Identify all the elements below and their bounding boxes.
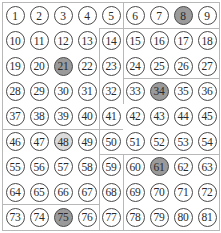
number-circle[interactable]: 60 <box>126 157 145 176</box>
number-circle[interactable]: 25 <box>150 57 169 76</box>
grid-cell[interactable]: 58 <box>75 154 99 179</box>
number-circle[interactable]: 46 <box>6 132 25 151</box>
number-circle[interactable]: 42 <box>126 107 145 126</box>
number-circle[interactable]: 14 <box>102 31 121 50</box>
number-circle[interactable]: 9 <box>198 6 217 25</box>
grid-cell[interactable]: 71 <box>171 180 195 205</box>
number-circle[interactable]: 52 <box>150 132 169 151</box>
number-circle[interactable]: 21 <box>54 57 73 76</box>
grid-cell[interactable]: 30 <box>51 79 75 104</box>
grid-cell[interactable]: 42 <box>123 104 147 129</box>
number-circle[interactable]: 26 <box>174 57 193 76</box>
number-circle[interactable]: 45 <box>198 107 217 126</box>
number-circle[interactable]: 2 <box>30 6 49 25</box>
grid-cell[interactable]: 40 <box>75 104 99 129</box>
grid-cell[interactable]: 16 <box>147 28 171 53</box>
grid-cell[interactable]: 68 <box>99 180 123 205</box>
number-circle[interactable]: 74 <box>30 208 49 227</box>
grid-cell[interactable]: 6 <box>123 3 147 28</box>
grid-cell[interactable]: 39 <box>51 104 75 129</box>
grid-cell[interactable]: 74 <box>27 205 51 230</box>
number-circle[interactable]: 70 <box>150 183 169 202</box>
number-circle[interactable]: 73 <box>6 208 25 227</box>
grid-cell[interactable]: 44 <box>171 104 195 129</box>
grid-cell[interactable]: 32 <box>99 79 123 104</box>
grid-cell[interactable]: 9 <box>195 3 219 28</box>
number-circle[interactable]: 62 <box>174 157 193 176</box>
number-circle[interactable]: 48 <box>54 132 73 151</box>
grid-cell[interactable]: 49 <box>75 129 99 154</box>
grid-cell[interactable]: 56 <box>27 154 51 179</box>
grid-cell[interactable]: 79 <box>147 205 171 230</box>
number-circle[interactable]: 69 <box>126 183 145 202</box>
grid-cell[interactable]: 11 <box>27 28 51 53</box>
grid-cell[interactable]: 67 <box>75 180 99 205</box>
grid-cell[interactable]: 35 <box>171 79 195 104</box>
number-circle[interactable]: 36 <box>198 82 217 101</box>
grid-cell[interactable]: 36 <box>195 79 219 104</box>
grid-cell[interactable]: 7 <box>147 3 171 28</box>
number-circle[interactable]: 30 <box>54 82 73 101</box>
number-circle[interactable]: 41 <box>102 107 121 126</box>
grid-cell[interactable]: 33 <box>123 79 147 104</box>
grid-cell[interactable]: 18 <box>195 28 219 53</box>
grid-cell[interactable]: 60 <box>123 154 147 179</box>
number-circle[interactable]: 1 <box>6 6 25 25</box>
grid-cell[interactable]: 12 <box>51 28 75 53</box>
number-circle[interactable]: 4 <box>78 6 97 25</box>
number-circle[interactable]: 80 <box>174 208 193 227</box>
number-circle[interactable]: 63 <box>198 157 217 176</box>
number-circle[interactable]: 72 <box>198 183 217 202</box>
number-circle[interactable]: 55 <box>6 157 25 176</box>
grid-cell[interactable]: 77 <box>99 205 123 230</box>
grid-cell[interactable]: 72 <box>195 180 219 205</box>
grid-cell[interactable]: 73 <box>3 205 27 230</box>
grid-cell[interactable]: 15 <box>123 28 147 53</box>
number-circle[interactable]: 29 <box>30 82 49 101</box>
number-circle[interactable]: 56 <box>30 157 49 176</box>
number-circle[interactable]: 5 <box>102 6 121 25</box>
number-circle[interactable]: 32 <box>102 82 121 101</box>
number-circle[interactable]: 57 <box>54 157 73 176</box>
number-circle[interactable]: 66 <box>54 183 73 202</box>
grid-cell[interactable]: 65 <box>27 180 51 205</box>
number-circle[interactable]: 38 <box>30 107 49 126</box>
number-circle[interactable]: 19 <box>6 57 25 76</box>
grid-cell[interactable]: 80 <box>171 205 195 230</box>
number-circle[interactable]: 23 <box>102 57 121 76</box>
number-circle[interactable]: 47 <box>30 132 49 151</box>
number-circle[interactable]: 6 <box>126 6 145 25</box>
number-circle[interactable]: 35 <box>174 82 193 101</box>
number-circle[interactable]: 59 <box>102 157 121 176</box>
number-circle[interactable]: 44 <box>174 107 193 126</box>
number-circle[interactable]: 34 <box>150 82 169 101</box>
number-circle[interactable]: 3 <box>54 6 73 25</box>
number-circle[interactable]: 11 <box>30 31 49 50</box>
grid-cell[interactable]: 43 <box>147 104 171 129</box>
grid-cell[interactable]: 14 <box>99 28 123 53</box>
grid-cell[interactable]: 27 <box>195 53 219 78</box>
grid-cell[interactable]: 75 <box>51 205 75 230</box>
number-circle[interactable]: 8 <box>174 6 193 25</box>
grid-cell[interactable]: 53 <box>171 129 195 154</box>
grid-cell[interactable]: 29 <box>27 79 51 104</box>
grid-cell[interactable]: 1 <box>3 3 27 28</box>
grid-cell[interactable]: 26 <box>171 53 195 78</box>
grid-cell[interactable]: 62 <box>171 154 195 179</box>
grid-cell[interactable]: 66 <box>51 180 75 205</box>
number-circle[interactable]: 77 <box>102 208 121 227</box>
number-circle[interactable]: 81 <box>198 208 217 227</box>
grid-cell[interactable]: 59 <box>99 154 123 179</box>
number-circle[interactable]: 20 <box>30 57 49 76</box>
number-circle[interactable]: 24 <box>126 57 145 76</box>
grid-cell[interactable]: 28 <box>3 79 27 104</box>
grid-cell[interactable]: 46 <box>3 129 27 154</box>
grid-cell[interactable]: 4 <box>75 3 99 28</box>
grid-cell[interactable]: 37 <box>3 104 27 129</box>
number-circle[interactable]: 79 <box>150 208 169 227</box>
number-circle[interactable]: 68 <box>102 183 121 202</box>
number-circle[interactable]: 10 <box>6 31 25 50</box>
number-circle[interactable]: 67 <box>78 183 97 202</box>
number-circle[interactable]: 71 <box>174 183 193 202</box>
number-circle[interactable]: 39 <box>54 107 73 126</box>
